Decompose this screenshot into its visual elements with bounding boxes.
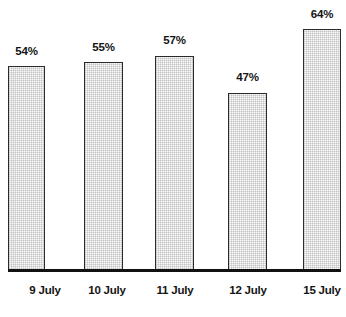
bar-9-july[interactable] <box>8 66 45 271</box>
bar-group-10-july: 55% <box>84 0 123 271</box>
bar-value-label-11-july: 57% <box>155 34 194 46</box>
bar-group-9-july: 54% <box>8 0 45 271</box>
bar-group-15-july: 64% <box>303 0 341 271</box>
bar-12-july[interactable] <box>228 93 267 271</box>
bar-group-12-july: 47% <box>228 0 267 271</box>
plot-area: 54% 55% 57% 47% 64% <box>0 0 346 271</box>
bar-10-july[interactable] <box>84 62 123 271</box>
bar-chart: 54% 55% 57% 47% 64% 9 July 10 July 11 Ju… <box>0 0 346 317</box>
bar-group-11-july: 57% <box>155 0 194 271</box>
x-axis-baseline <box>8 269 341 272</box>
bar-value-label-12-july: 47% <box>228 71 267 83</box>
bar-value-label-10-july: 55% <box>84 41 123 53</box>
bar-value-label-9-july: 54% <box>8 45 45 57</box>
bar-value-label-15-july: 64% <box>303 8 341 20</box>
x-axis-label-15-july: 15 July <box>277 284 346 297</box>
bar-11-july[interactable] <box>155 56 194 271</box>
bar-15-july[interactable] <box>303 29 341 271</box>
